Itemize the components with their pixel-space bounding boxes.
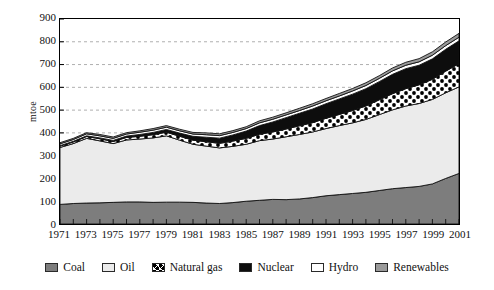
x-tick-label: 1995: [369, 228, 391, 241]
legend-item-renewables[interactable]: Renewables: [375, 261, 449, 273]
x-tick-label: 1983: [208, 228, 230, 241]
y-tick-label: 600: [22, 81, 56, 92]
nuclear-swatch: [239, 263, 252, 272]
y-axis-tick-labels: 0100200300400500600700800900: [20, 0, 56, 290]
y-tick-label: 400: [22, 127, 56, 138]
x-tick-label: 1997: [396, 228, 418, 241]
x-tick-label: 1979: [155, 228, 177, 241]
x-tick-label: 1991: [315, 228, 337, 241]
legend-label: Natural gas: [170, 261, 223, 273]
y-tick-label: 100: [22, 196, 56, 207]
y-tick-label: 500: [22, 104, 56, 115]
legend-item-coal[interactable]: Coal: [45, 261, 85, 273]
y-tick-label: 700: [22, 58, 56, 69]
area-series-group: [60, 33, 459, 224]
plot-svg: [60, 19, 459, 224]
legend-item-oil[interactable]: Oil: [102, 261, 135, 273]
x-tick-label: 1999: [422, 228, 444, 241]
legend-item-hydro[interactable]: Hydro: [311, 261, 358, 273]
x-tick-label: 1973: [75, 228, 97, 241]
stacked-area-chart: mtoe 0100200300400500600700800900 197119…: [0, 0, 494, 290]
x-tick-label: 1989: [289, 228, 311, 241]
natural-gas-swatch: [152, 263, 165, 272]
legend-item-natural-gas[interactable]: Natural gas: [152, 261, 223, 273]
x-tick-label: 1985: [235, 228, 257, 241]
oil-swatch: [102, 263, 115, 272]
x-tick-label: 1987: [262, 228, 284, 241]
y-tick-label: 800: [22, 35, 56, 46]
coal-swatch: [45, 263, 58, 272]
x-tick-label: 1993: [342, 228, 364, 241]
x-tick-label: 1971: [48, 228, 70, 241]
legend-label: Coal: [63, 261, 85, 273]
x-tick-label: 1977: [128, 228, 150, 241]
legend-label: Oil: [120, 261, 135, 273]
chart-legend: CoalOilNatural gasNuclearHydroRenewables: [0, 258, 494, 276]
plot-area: [59, 18, 460, 225]
y-tick-label: 200: [22, 173, 56, 184]
y-tick-label: 900: [22, 12, 56, 23]
legend-label: Hydro: [329, 261, 358, 273]
x-tick-label: 1981: [182, 228, 204, 241]
x-tick-label: 1975: [101, 228, 123, 241]
legend-label: Nuclear: [257, 261, 293, 273]
legend-label: Renewables: [393, 261, 449, 273]
hydro-swatch: [311, 263, 324, 272]
renewables-swatch: [375, 263, 388, 272]
y-tick-label: 300: [22, 150, 56, 161]
x-axis-tick-labels: 1971197319751977197919811983198519871989…: [59, 228, 460, 244]
legend-item-nuclear[interactable]: Nuclear: [239, 261, 293, 273]
x-tick-label: 2001: [449, 228, 471, 241]
